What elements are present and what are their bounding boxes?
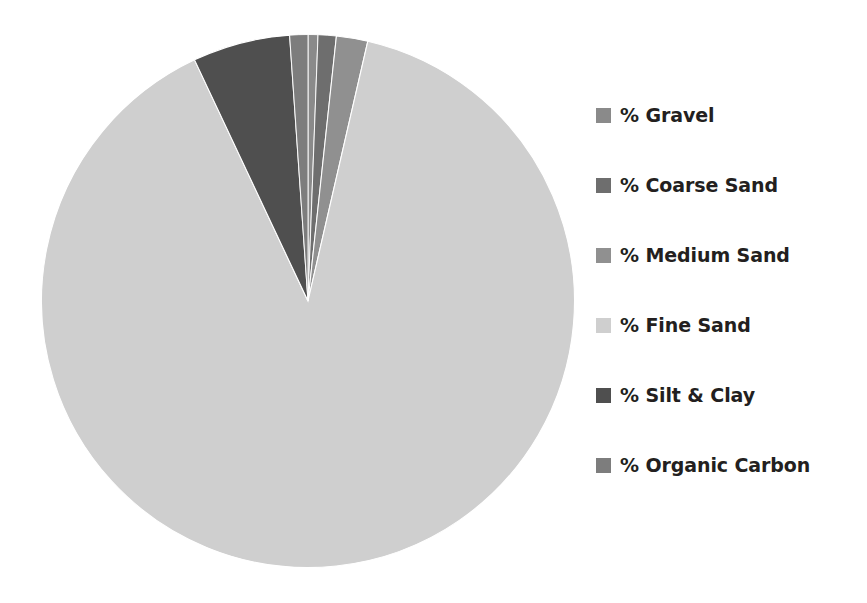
legend-label-medium-sand: % Medium Sand xyxy=(620,244,790,266)
legend-label-silt-and-clay: % Silt & Clay xyxy=(620,384,755,406)
pie-slice-group xyxy=(42,35,575,568)
legend-item-silt-and-clay[interactable]: % Silt & Clay xyxy=(596,384,755,406)
chart-legend: % Gravel% Coarse Sand% Medium Sand% Fine… xyxy=(596,104,858,504)
legend-label-coarse-sand: % Coarse Sand xyxy=(620,174,778,196)
legend-item-medium-sand[interactable]: % Medium Sand xyxy=(596,244,790,266)
pie-chart-figure: % Gravel% Coarse Sand% Medium Sand% Fine… xyxy=(0,0,867,603)
legend-swatch-gravel-icon xyxy=(596,108,611,123)
pie-svg xyxy=(41,34,575,568)
legend-label-gravel: % Gravel xyxy=(620,104,714,126)
pie-plot-area xyxy=(41,34,575,568)
legend-swatch-silt-clay-icon xyxy=(596,388,611,403)
legend-label-organic-carbon: % Organic Carbon xyxy=(620,454,810,476)
legend-item-gravel[interactable]: % Gravel xyxy=(596,104,714,126)
legend-item-organic-carbon[interactable]: % Organic Carbon xyxy=(596,454,810,476)
legend-label-fine-sand: % Fine Sand xyxy=(620,314,751,336)
legend-item-coarse-sand[interactable]: % Coarse Sand xyxy=(596,174,778,196)
legend-swatch-organic-carbon-icon xyxy=(596,458,611,473)
legend-swatch-coarse-sand-icon xyxy=(596,178,611,193)
legend-swatch-fine-sand-icon xyxy=(596,318,611,333)
legend-swatch-medium-sand-icon xyxy=(596,248,611,263)
legend-item-fine-sand[interactable]: % Fine Sand xyxy=(596,314,751,336)
